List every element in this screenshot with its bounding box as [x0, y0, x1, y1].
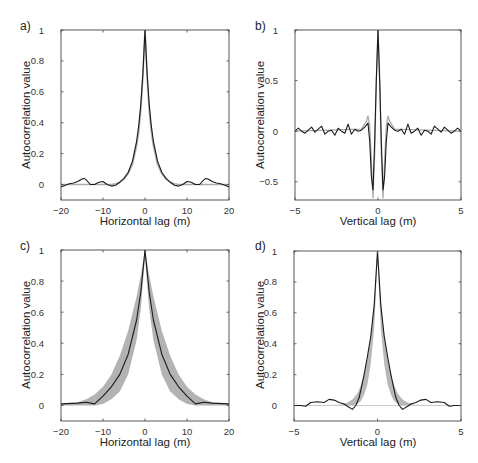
x-tick-label: −5 [289, 426, 300, 437]
x-axis-title: Horizontal lag (m) [100, 436, 191, 448]
data-line [295, 30, 461, 190]
y-axis-title: Autocorrelation value [20, 61, 32, 169]
y-tick-label: 1 [39, 25, 44, 36]
y-axis-title: Autocorrelation value [20, 281, 32, 389]
y-tick-label: 0 [273, 126, 278, 137]
data-line [61, 30, 229, 187]
y-tick-label: 0 [39, 400, 44, 411]
panel-d: d) −50500.20.40.60.81 Vertical lag (m) A… [254, 239, 464, 448]
panel-label: d) [255, 239, 266, 253]
y-tick-label: 0.5 [265, 75, 278, 86]
mean-line [61, 250, 229, 404]
x-tick-label: 20 [224, 205, 235, 216]
axes-frame [295, 30, 461, 200]
y-axis-title: Autocorrelation value [254, 61, 266, 169]
panel-label: b) [255, 19, 266, 33]
x-tick-label: 5 [458, 426, 463, 437]
y-tick-label: 0.2 [31, 369, 44, 380]
panel-a: a) −20−100102000.20.40.60.81 Horizontal … [20, 19, 234, 227]
y-tick-label: 0.6 [31, 307, 44, 318]
y-tick-label: 0 [272, 400, 277, 411]
x-axis-title: Vertical lag (m) [340, 215, 417, 227]
y-tick-label: 1 [273, 25, 278, 36]
x-tick-label: −20 [53, 205, 69, 216]
y-tick-label: 0.4 [31, 338, 44, 349]
axes-frame [61, 30, 229, 200]
y-tick-label: 0.6 [31, 86, 44, 97]
y-tick-label: 0.8 [31, 55, 44, 66]
y-tick-label: 0 [39, 179, 44, 190]
y-tick-label: 0.4 [31, 117, 44, 128]
panel-label: c) [20, 239, 30, 253]
model-envelope-band [294, 251, 461, 406]
x-axis-title: Vertical lag (m) [340, 436, 417, 448]
model-envelope-band [61, 250, 229, 406]
axes-frame [61, 250, 229, 421]
model-line [61, 30, 229, 185]
y-tick-label: 0.2 [31, 148, 44, 159]
y-tick-label: 1 [39, 245, 44, 256]
panel-b: b) −505−0.500.51 Vertical lag (m) Autoco… [254, 19, 464, 227]
x-tick-label: −5 [290, 205, 301, 216]
x-axis-title: Horizontal lag (m) [100, 215, 191, 227]
data-line [294, 251, 461, 409]
y-axis-title: Autocorrelation value [254, 281, 266, 389]
x-tick-label: 5 [458, 205, 463, 216]
y-tick-label: 1 [272, 246, 277, 257]
figure: a) −20−100102000.20.40.60.81 Horizontal … [0, 0, 478, 463]
y-tick-label: 0.8 [31, 276, 44, 287]
x-tick-label: −20 [53, 426, 69, 437]
axes-frame [294, 251, 461, 421]
panel-label: a) [20, 19, 31, 33]
x-tick-label: 20 [224, 426, 235, 437]
y-tick-label: −0.5 [259, 176, 278, 187]
panel-c: c) −20−100102000.20.40.60.81 Horizontal … [20, 239, 234, 448]
model-line [295, 30, 461, 198]
